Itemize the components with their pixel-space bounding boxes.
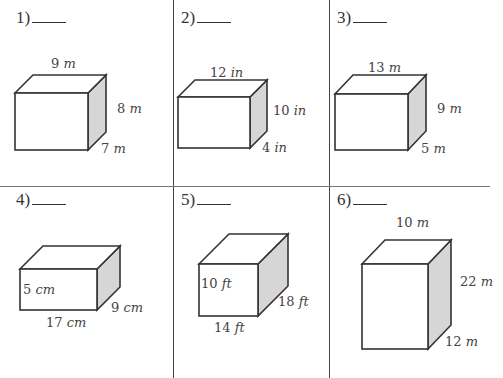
p3-top-label: 13 m — [368, 60, 401, 75]
p6-top-label: 10 m — [396, 215, 429, 230]
prism-5-icon — [199, 234, 288, 316]
p2-right-label: 10 in — [273, 103, 306, 118]
p4-front-label: 5 cm — [23, 282, 55, 297]
p2-depth-label: 4 in — [262, 140, 287, 155]
prism-1-icon — [15, 75, 106, 150]
prism-2-icon — [178, 80, 267, 148]
p4-depth-label: 9 cm — [111, 300, 143, 315]
p3-right-label: 9 m — [437, 101, 462, 116]
prism-4-icon — [20, 246, 120, 310]
p2-top-label: 12 in — [210, 65, 243, 80]
p3-depth-label: 5 m — [421, 141, 446, 156]
p4-bottom-label: 17 cm — [46, 315, 86, 330]
p6-depth-label: 12 m — [445, 334, 478, 349]
prism-3-icon — [335, 75, 426, 150]
p6-right-label: 22 m — [460, 274, 493, 289]
p5-depth-label: 18 ft — [278, 294, 309, 309]
p5-front-label: 10 ft — [201, 276, 232, 291]
p1-right-label: 8 m — [117, 101, 142, 116]
p5-bottom-label: 14 ft — [214, 320, 245, 335]
p1-top-label: 9 m — [51, 56, 76, 71]
prism-6-icon — [362, 240, 451, 349]
p1-depth-label: 7 m — [101, 141, 126, 156]
